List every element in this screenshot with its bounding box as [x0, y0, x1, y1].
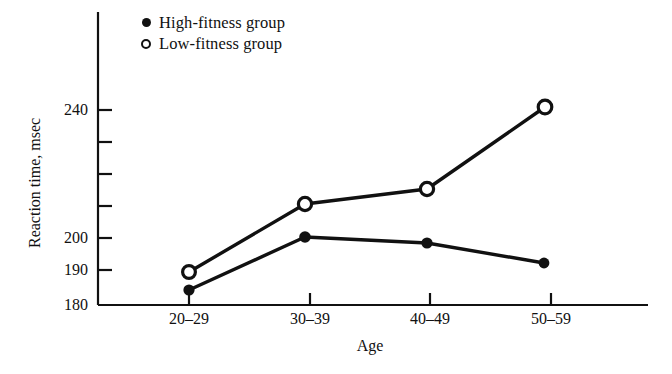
y-axis-title: Reaction time, msec: [26, 118, 44, 248]
series-line-low-fitness: [189, 107, 545, 272]
x-tick-label-50-59: 50–59: [506, 310, 596, 328]
data-point-low-40-49: [420, 182, 433, 195]
x-tick-label-30-39: 30–39: [265, 310, 355, 328]
y-tick-label-190: 190: [42, 261, 88, 279]
x-axis-ticks: [189, 293, 551, 305]
data-point-low-30-39: [298, 197, 311, 210]
data-point-high-20-29: [183, 284, 194, 295]
legend-item-high-fitness: High-fitness group: [138, 12, 285, 33]
data-point-low-20-29: [183, 266, 196, 279]
y-tick-label-200: 200: [42, 229, 88, 247]
chart-legend: High-fitness group Low-fitness group: [138, 12, 285, 54]
filled-circle-icon: [138, 15, 154, 31]
series-markers-low-fitness: [183, 100, 552, 278]
legend-label-low-fitness: Low-fitness group: [159, 33, 282, 54]
data-point-high-30-39: [299, 231, 311, 243]
series-line-high-fitness: [189, 237, 544, 290]
x-tick-label-40-49: 40–49: [385, 310, 475, 328]
data-point-low-50-59: [538, 100, 552, 114]
legend-item-low-fitness: Low-fitness group: [138, 33, 285, 54]
open-circle-icon: [138, 36, 154, 52]
y-tick-label-240: 240: [42, 101, 88, 119]
data-point-high-50-59: [539, 258, 550, 269]
line-chart: High-fitness group Low-fitness group 240…: [0, 0, 672, 374]
x-tick-label-20-29: 20–29: [144, 310, 234, 328]
legend-label-high-fitness: High-fitness group: [159, 12, 285, 33]
y-axis-ticks: [98, 110, 112, 270]
data-point-high-40-49: [421, 237, 432, 248]
y-tick-label-180: 180: [42, 296, 88, 314]
x-axis-title: Age: [310, 337, 430, 355]
